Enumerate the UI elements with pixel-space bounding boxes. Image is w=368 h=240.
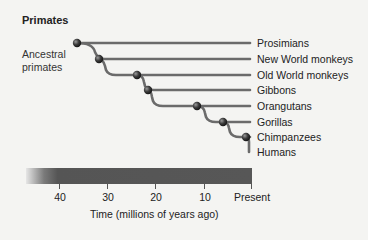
axis-tick <box>59 184 60 189</box>
axis-tick-label: Present <box>234 191 270 203</box>
taxon-label-orangutans: Orangutans <box>257 100 312 112</box>
node-icon <box>193 102 201 110</box>
time-axis-bar <box>26 168 252 184</box>
taxon-label-old-world-monkeys: Old World monkeys <box>257 69 348 81</box>
axis-tick <box>204 184 205 189</box>
axis-title: Time (millions of years ago) <box>90 208 219 220</box>
node-icon <box>73 39 81 47</box>
taxon-label-gibbons: Gibbons <box>257 84 296 96</box>
node-icon <box>133 71 141 79</box>
axis-tick-label: 10 <box>199 191 211 203</box>
node-icon <box>144 86 152 94</box>
taxon-label-humans: Humans <box>257 146 296 158</box>
axis-tick <box>251 184 252 189</box>
axis-tick-label: 20 <box>150 191 162 203</box>
axis-tick <box>155 184 156 189</box>
axis-tick-label: 40 <box>54 191 66 203</box>
node-icon <box>219 118 227 126</box>
node-icon <box>95 55 103 63</box>
node-icon <box>242 133 250 141</box>
axis-tick <box>107 184 108 189</box>
taxon-label-new-world-monkeys: New World monkeys <box>257 53 353 65</box>
taxon-label-chimpanzees: Chimpanzees <box>257 131 321 143</box>
axis-tick-label: 30 <box>102 191 114 203</box>
taxon-label-prosimians: Prosimians <box>257 37 309 49</box>
taxon-label-gorillas: Gorillas <box>257 116 293 128</box>
